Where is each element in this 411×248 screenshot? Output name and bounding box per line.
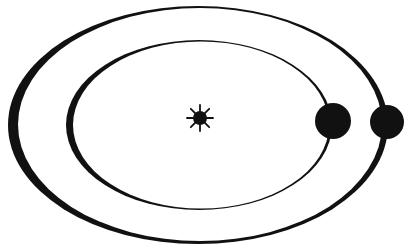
sun-core [193,111,207,125]
sun-icon [187,105,213,131]
orbit-diagram [0,0,411,248]
inner-orbit [66,40,332,210]
outer-planet [370,105,404,139]
inner-planet [315,103,351,139]
